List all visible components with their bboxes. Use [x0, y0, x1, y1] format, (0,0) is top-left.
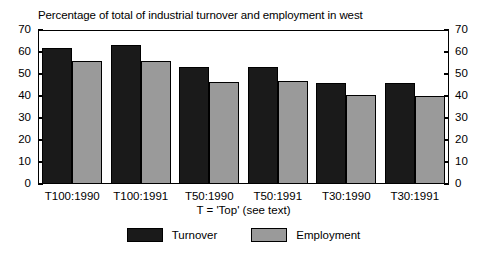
y-tick-label-left: 0 [0, 178, 31, 190]
y-tick-label-left: 60 [0, 46, 31, 58]
legend-swatch-employment [251, 228, 287, 242]
category-label-T30:1991: T30:1991 [381, 190, 450, 202]
bar-employment-T30:1990 [346, 95, 376, 184]
chart-figure: Percentage of total of industrial turnov… [0, 0, 487, 260]
y-tick-label-right: 60 [455, 46, 468, 58]
bar-employment-T100:1990 [72, 61, 102, 184]
y-tick-label-left: 30 [0, 112, 31, 124]
y-tick-label-right: 10 [455, 156, 468, 168]
y-tick-label-right: 70 [455, 24, 468, 36]
y-tick-label-right: 0 [455, 178, 461, 190]
y-tick-label-left: 10 [0, 156, 31, 168]
bar-employment-T100:1991 [141, 61, 171, 184]
legend-entry-employment: Employment [251, 228, 360, 242]
y-tick-mark-right [444, 51, 449, 53]
legend-swatch-turnover [127, 228, 163, 242]
bar-employment-T50:1991 [278, 81, 308, 184]
y-tick-label-right: 50 [455, 68, 468, 80]
category-label-T30:1990: T30:1990 [312, 190, 381, 202]
y-tick-label-right: 20 [455, 134, 468, 146]
y-tick-mark-left [38, 29, 43, 31]
category-label-T50:1990: T50:1990 [175, 190, 244, 202]
y-tick-label-right: 40 [455, 90, 468, 102]
bar-turnover-T100:1990 [42, 48, 72, 184]
bar-turnover-T50:1990 [179, 67, 209, 184]
category-label-T100:1990: T100:1990 [38, 190, 107, 202]
y-tick-mark-right [444, 73, 449, 75]
legend-label-turnover: Turnover [172, 229, 218, 241]
chart-title: Percentage of total of industrial turnov… [38, 8, 363, 22]
y-tick-label-left: 50 [0, 68, 31, 80]
y-tick-label-left: 20 [0, 134, 31, 146]
y-tick-mark-right [444, 95, 449, 97]
y-tick-label-right: 30 [455, 112, 468, 124]
y-tick-label-left: 70 [0, 24, 31, 36]
y-tick-label-left: 40 [0, 90, 31, 102]
y-tick-mark-right [444, 161, 449, 163]
chart-legend: TurnoverEmployment [0, 228, 487, 242]
y-tick-mark-right [444, 117, 449, 119]
x-axis-label: T = 'Top' (see text) [0, 204, 487, 217]
category-label-T100:1991: T100:1991 [107, 190, 176, 202]
bar-employment-T50:1990 [209, 82, 239, 184]
category-label-T50:1991: T50:1991 [244, 190, 313, 202]
y-tick-mark-right [444, 29, 449, 31]
bar-turnover-T30:1991 [385, 83, 415, 184]
bar-turnover-T50:1991 [248, 67, 278, 184]
y-tick-mark-right [444, 183, 449, 185]
bar-turnover-T30:1990 [316, 83, 346, 184]
legend-label-employment: Employment [296, 229, 360, 241]
y-tick-mark-right [444, 139, 449, 141]
bar-turnover-T100:1991 [111, 45, 141, 184]
legend-entry-turnover: Turnover [127, 228, 218, 242]
bar-employment-T30:1991 [415, 96, 445, 184]
